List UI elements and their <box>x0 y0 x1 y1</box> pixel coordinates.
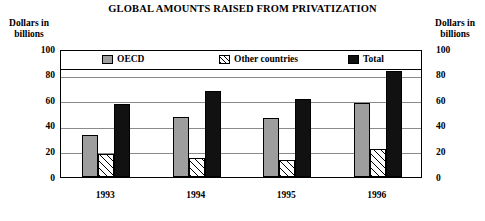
left-axis-tick-80: 80 <box>15 70 55 80</box>
left-axis-caption-line2: billions <box>2 29 56 40</box>
left-axis-tick-20: 20 <box>15 147 55 157</box>
legend-label-other-countries: Other countries <box>234 54 298 64</box>
left-axis-tick-40: 40 <box>15 121 55 131</box>
plot-area: OECDOther countriesTotal <box>60 50 422 178</box>
diagonal-hatch-swatch <box>219 55 230 64</box>
gray-filled-swatch <box>102 55 113 64</box>
category-label-1995: 1995 <box>246 190 326 200</box>
privatization-bar-chart: GLOBAL AMOUNTS RAISED FROM PRIVATIZATION… <box>0 0 485 221</box>
bar-total-1996 <box>386 71 402 177</box>
right-axis-tick-20: 20 <box>436 147 476 157</box>
legend-item-total: Total <box>348 54 384 64</box>
left-axis-caption: Dollars in billions <box>2 18 56 39</box>
category-label-1994: 1994 <box>156 190 236 200</box>
black-filled-swatch <box>348 55 359 64</box>
chart-title: GLOBAL AMOUNTS RAISED FROM PRIVATIZATION <box>0 3 485 14</box>
bar-oecd-1995 <box>263 118 279 177</box>
category-label-1993: 1993 <box>65 190 145 200</box>
right-axis-tick-40: 40 <box>436 121 476 131</box>
bar-oecd-1996 <box>354 103 370 177</box>
right-axis-caption-line2: billions <box>428 29 482 40</box>
bar-total-1993 <box>114 104 130 177</box>
legend-label-oecd: OECD <box>117 54 144 64</box>
left-axis-tick-0: 0 <box>15 173 55 183</box>
left-axis-tick-60: 60 <box>15 96 55 106</box>
left-axis-tick-100: 100 <box>15 45 55 55</box>
right-axis-tick-100: 100 <box>436 45 476 55</box>
right-axis-caption-line1: Dollars in <box>428 18 482 29</box>
legend-item-oecd: OECD <box>102 54 144 64</box>
bar-other-countries-1993 <box>98 154 114 177</box>
bar-other-countries-1994 <box>189 158 205 177</box>
chart-legend: OECDOther countriesTotal <box>61 51 421 70</box>
bar-other-countries-1995 <box>279 160 295 177</box>
legend-label-total: Total <box>363 54 384 64</box>
bar-oecd-1994 <box>173 117 189 177</box>
bar-oecd-1993 <box>82 135 98 177</box>
bar-other-countries-1996 <box>370 149 386 177</box>
left-axis-caption-line1: Dollars in <box>2 18 56 29</box>
right-axis-tick-0: 0 <box>436 173 476 183</box>
right-axis-tick-60: 60 <box>436 96 476 106</box>
right-axis-caption: Dollars in billions <box>428 18 482 39</box>
legend-item-other-countries: Other countries <box>219 54 298 64</box>
category-label-1996: 1996 <box>337 190 417 200</box>
bar-total-1994 <box>205 91 221 177</box>
right-axis-tick-80: 80 <box>436 70 476 80</box>
bar-total-1995 <box>295 99 311 177</box>
